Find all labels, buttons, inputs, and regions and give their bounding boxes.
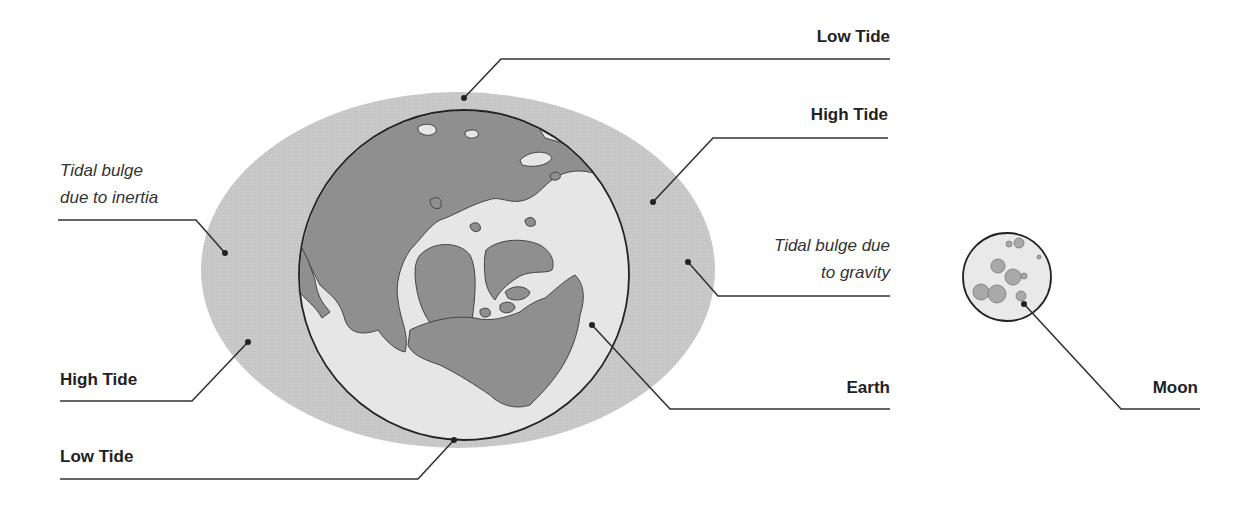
moon — [963, 233, 1051, 321]
label-bulge-inertia-line1: Tidal bulge — [60, 161, 143, 181]
label-bulge-gravity-line2: to gravity — [821, 263, 890, 283]
label-high-tide-left: High Tide — [60, 370, 137, 390]
leader-low-tide-top — [464, 59, 890, 98]
label-moon: Moon — [1153, 378, 1198, 398]
label-low-tide-bottom: Low Tide — [60, 447, 133, 467]
label-bulge-inertia-line2: due to inertia — [60, 188, 158, 208]
leader-bulge-inertia — [58, 220, 225, 253]
tides-diagram — [0, 0, 1253, 505]
label-earth: Earth — [847, 378, 890, 398]
label-bulge-gravity-line1: Tidal bulge due — [774, 236, 890, 256]
label-low-tide-top: Low Tide — [817, 27, 890, 47]
label-high-tide-right: High Tide — [811, 105, 888, 125]
